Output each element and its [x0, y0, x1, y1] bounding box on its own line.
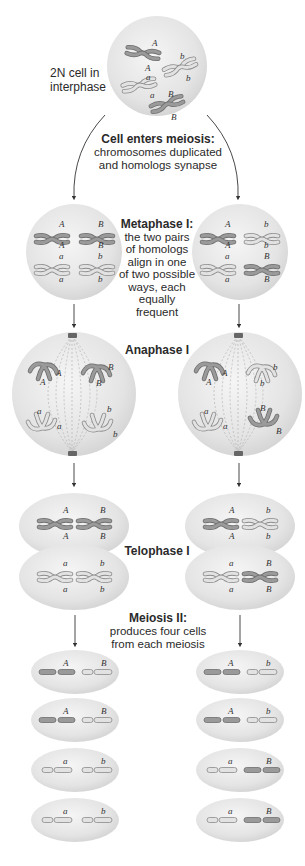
allele-label: a — [63, 756, 68, 766]
label-title: Meiosis II: — [102, 612, 214, 625]
telophase-label: Telophase I — [118, 545, 196, 558]
allele-label: B — [266, 584, 272, 594]
allele-label: b — [100, 558, 105, 568]
allele-label: B — [96, 378, 102, 388]
allele-label: A — [224, 219, 231, 229]
metaphase-label: Metaphase I: the two pairs of homologs a… — [118, 218, 196, 318]
allele-label: B — [108, 362, 114, 372]
label-line: align in one — [118, 256, 196, 269]
allele-label: B — [100, 531, 106, 541]
anaphase-cell-right: A A b b a a B B — [178, 332, 302, 456]
allele-label: a — [150, 90, 155, 100]
label-line: 2N cell in — [50, 66, 104, 80]
allele-label: B — [100, 505, 106, 515]
label-line: equally frequent — [118, 293, 196, 318]
allele-label: b — [98, 251, 103, 261]
allele-label: A — [151, 38, 158, 48]
telophase-cell-left: A A B B a a b b — [19, 493, 129, 610]
allele-label: b — [186, 73, 191, 83]
allele-label: b — [264, 240, 269, 250]
allele-label: B — [98, 240, 104, 250]
label-title: Metaphase I: — [118, 218, 196, 231]
allele-label: A — [62, 706, 69, 716]
allele-label: B — [101, 658, 107, 668]
allele-label: b — [101, 806, 106, 816]
allele-label: a — [57, 421, 62, 431]
allele-label: A — [58, 240, 65, 250]
allele-label: A — [228, 531, 235, 541]
meiosis-diagram: A A b b a a B B A A B B a a b b A A b b — [0, 0, 305, 866]
allele-label: A — [39, 377, 46, 387]
allele-label: B — [264, 274, 270, 284]
allele-label: b — [260, 378, 265, 388]
anaphase-label: Anaphase I — [118, 344, 196, 357]
allele-label: b — [266, 505, 271, 515]
allele-label: B — [276, 426, 282, 436]
allele-label: b — [113, 429, 118, 439]
label-line: from each meiosis — [102, 638, 214, 651]
allele-label: B — [260, 403, 266, 413]
enters-meiosis-label: Cell enters meiosis: chromosomes duplica… — [88, 133, 228, 172]
allele-label: a — [63, 806, 68, 816]
allele-label: a — [59, 251, 64, 261]
allele-label: b — [264, 219, 269, 229]
allele-label: B — [266, 806, 272, 816]
label-line: and homologs synapse — [88, 159, 228, 172]
allele-label: b — [98, 274, 103, 284]
allele-label: A — [205, 377, 212, 387]
centrosome — [234, 333, 243, 338]
allele-label: B — [168, 89, 174, 99]
allele-label: b — [273, 362, 278, 372]
centrosome — [234, 451, 243, 456]
allele-label: a — [63, 584, 68, 594]
allele-label: B — [264, 251, 270, 261]
allele-label: a — [63, 558, 68, 568]
allele-label: A — [227, 706, 234, 716]
allele-label: B — [171, 112, 177, 122]
allele-label: a — [228, 806, 233, 816]
allele-label: A — [62, 505, 69, 515]
label-line: of homologs — [118, 243, 196, 256]
label-line: interphase — [50, 80, 104, 94]
label-line: produces four cells — [102, 625, 214, 638]
allele-label: A — [62, 658, 69, 668]
label-line: ways, each — [118, 281, 196, 294]
allele-label: A — [228, 505, 235, 515]
allele-label: A — [58, 219, 65, 229]
interphase-label: 2N cell in interphase — [50, 66, 104, 94]
label-line: the two pairs — [118, 231, 196, 244]
allele-label: B — [266, 558, 272, 568]
centrosome — [68, 451, 77, 456]
allele-label: A — [55, 368, 62, 378]
metaphase-cell-left: A A B B a a b b — [26, 204, 122, 300]
allele-label: A — [221, 368, 228, 378]
allele-label: a — [225, 274, 230, 284]
allele-label: B — [98, 219, 104, 229]
allele-label: A — [224, 240, 231, 250]
allele-label: b — [180, 51, 185, 61]
gametes-left: A B A B a b a b — [31, 650, 119, 842]
label-title: Cell enters meiosis: — [88, 133, 228, 146]
allele-label: a — [204, 406, 209, 416]
allele-label: a — [229, 558, 234, 568]
gametes-right: A b A b a B a B — [196, 650, 284, 842]
allele-label: a — [146, 72, 151, 82]
allele-label: a — [37, 406, 42, 416]
label-line: of two possible — [118, 268, 196, 281]
centrosome — [68, 333, 77, 338]
label-line: chromosomes duplicated — [88, 146, 228, 159]
interphase-cell: A A b b a a B B — [107, 16, 207, 122]
allele-label: b — [266, 531, 271, 541]
allele-label: A — [227, 658, 234, 668]
allele-label: a — [59, 274, 64, 284]
allele-label: B — [101, 706, 107, 716]
metaphase-cell-right: A A b b a a B B — [192, 204, 288, 300]
allele-label: A — [62, 531, 69, 541]
telophase-cell-right: A A b b a a B B — [185, 493, 295, 610]
allele-label: B — [266, 756, 272, 766]
allele-label: b — [266, 706, 271, 716]
allele-label: b — [107, 404, 112, 414]
allele-label: a — [229, 584, 234, 594]
allele-label: b — [101, 756, 106, 766]
allele-label: a — [223, 421, 228, 431]
